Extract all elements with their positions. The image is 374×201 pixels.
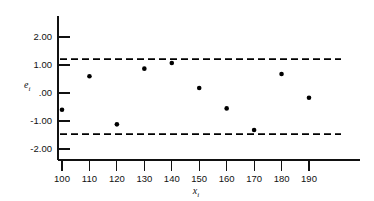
- x-tick-marks: [62, 160, 309, 171]
- y-tick-label-3: -1.00: [30, 115, 52, 126]
- y-axis-title: ei: [24, 79, 30, 93]
- y-axis-title-subscript: i: [28, 85, 30, 93]
- x-tick-label-4: 140: [164, 173, 180, 184]
- x-tick-label-5: 150: [191, 173, 207, 184]
- data-point: [307, 95, 312, 100]
- y-tick-label-4: -2.00: [30, 143, 52, 154]
- x-tick-label-2: 120: [109, 173, 125, 184]
- residual-scatter-chart: 2.001.00.00-1.00-2.00 100110120130140150…: [0, 0, 374, 201]
- x-tick-label-9: 190: [301, 173, 317, 184]
- y-tick-labels: 2.001.00.00-1.00-2.00: [30, 31, 52, 154]
- data-point: [279, 72, 284, 77]
- x-tick-label-6: 160: [219, 173, 235, 184]
- y-tick-marks: [58, 37, 70, 149]
- data-point-series: [60, 61, 312, 133]
- x-tick-label-8: 180: [274, 173, 290, 184]
- x-tick-label-0: 100: [54, 173, 70, 184]
- data-point: [115, 122, 120, 127]
- x-axis-title-subscript: i: [197, 191, 199, 199]
- y-tick-label-2: .00: [39, 87, 52, 98]
- x-axis-title: xi: [192, 185, 199, 199]
- y-tick-label-0: 2.00: [34, 31, 53, 42]
- x-tick-label-7: 170: [246, 173, 262, 184]
- data-point: [197, 86, 202, 91]
- chart-canvas: 2.001.00.00-1.00-2.00 100110120130140150…: [0, 0, 374, 201]
- data-point: [87, 74, 92, 79]
- x-tick-label-1: 110: [82, 173, 97, 184]
- data-point: [169, 61, 174, 66]
- y-tick-label-1: 1.00: [34, 59, 53, 70]
- x-tick-labels: 100110120130140150160170180190: [54, 173, 317, 184]
- x-tick-label-3: 130: [136, 173, 152, 184]
- data-point: [224, 106, 229, 111]
- data-point: [252, 128, 257, 133]
- data-point: [60, 108, 65, 113]
- data-point: [142, 66, 147, 71]
- control-limit-lines: [60, 59, 341, 134]
